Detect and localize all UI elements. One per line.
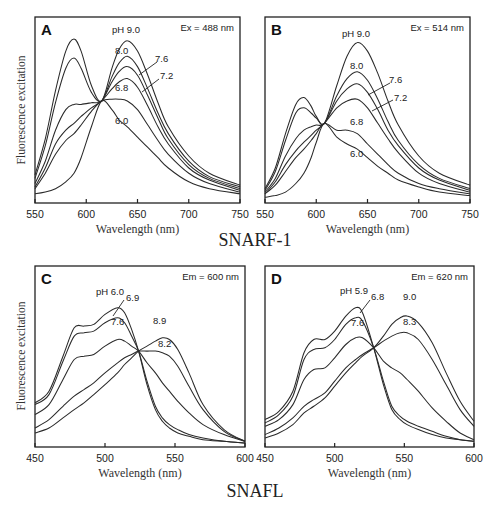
ph-label: 7.6	[155, 53, 168, 64]
ph-label: pH 9.0	[342, 28, 370, 39]
x-tick-label: 600	[77, 208, 95, 220]
ph-label: 6.9	[126, 292, 139, 303]
x-tick-label: 600	[307, 208, 325, 220]
panel-c-condition: Em = 600 nm	[182, 271, 239, 282]
ph-label: 8.2	[158, 338, 171, 349]
panel-d-frame	[265, 266, 474, 447]
x-tick-label: 650	[359, 208, 377, 220]
x-tick-label: 550	[256, 208, 274, 220]
figure-canvas: Fluorescence excitation Fluorescence exc…	[0, 0, 498, 508]
panel-d: 450500550600 pH 5.96.89.07.68.3 D Em = 6…	[256, 266, 483, 480]
panel-d-leader-lines	[360, 300, 370, 313]
ph-label: pH 9.0	[112, 24, 140, 35]
y-axis-label-top: Fluorescence excitation	[15, 55, 27, 164]
ph-label: 7.6	[389, 74, 402, 85]
curve-7.6	[265, 84, 470, 192]
x-tick-label: 600	[465, 452, 483, 464]
panel-b-frame	[265, 17, 470, 203]
panel-a-ph-labels: pH 9.08.07.67.26.86.0	[112, 24, 173, 126]
panel-c: 450500550600 pH 6.06.97.68.98.2 C Em = 6…	[26, 266, 254, 480]
ph-label: 7.6	[351, 317, 364, 328]
panel-a-x-axis-label: Wavelength (nm)	[96, 222, 179, 236]
ph-label: 8.9	[153, 315, 166, 326]
curve-ph-9.0	[265, 42, 470, 188]
x-tick-label: 750	[461, 208, 479, 220]
panel-c-x-ticks: 450500550600	[26, 443, 254, 464]
panel-a: 550600650700750 pH 9.08.07.67.26.86.0 A …	[26, 17, 249, 236]
x-tick-label: 450	[26, 452, 44, 464]
leader-line	[113, 300, 124, 316]
x-tick-label: 700	[410, 208, 428, 220]
ph-label: 7.6	[111, 316, 124, 327]
panel-a-curves	[35, 39, 240, 194]
curve-6.0	[265, 123, 470, 197]
panel-d-curves	[265, 307, 474, 441]
panel-b-curves	[265, 42, 470, 197]
panel-d-ph-labels: pH 5.96.89.07.68.3	[340, 285, 416, 328]
curve-6.9	[35, 318, 245, 443]
x-tick-label: 550	[26, 208, 44, 220]
ph-label: 6.8	[350, 116, 363, 127]
ph-label: 7.2	[160, 70, 173, 81]
x-tick-label: 550	[166, 452, 184, 464]
x-tick-label: 500	[96, 452, 114, 464]
panel-b-letter: B	[271, 21, 282, 38]
x-tick-label: 450	[256, 452, 274, 464]
panel-a-letter: A	[41, 21, 52, 38]
group-title-snarf: SNARF-1	[218, 230, 291, 250]
ph-label: pH 6.0	[96, 286, 124, 297]
ph-label: 6.0	[115, 115, 128, 126]
curve-ph-6.0	[35, 308, 245, 443]
panel-b-x-ticks: 550600650700750	[256, 199, 479, 220]
x-tick-label: 500	[326, 452, 344, 464]
panel-c-letter: C	[41, 270, 52, 287]
ph-label: 7.2	[394, 92, 407, 103]
panel-b-x-axis-label: Wavelength (nm)	[326, 222, 409, 236]
x-tick-label: 700	[180, 208, 198, 220]
panel-a-condition: Ex = 488 nm	[180, 22, 234, 33]
panel-d-letter: D	[271, 270, 282, 287]
curve-8.3	[265, 332, 474, 434]
ph-label: 8.0	[115, 45, 128, 56]
x-tick-label: 550	[396, 452, 414, 464]
curve-7.6	[265, 337, 474, 440]
panel-c-leader-lines	[113, 300, 124, 316]
ph-label: 8.0	[350, 60, 363, 71]
panel-d-condition: Em = 620 nm	[411, 271, 468, 282]
ph-label: 6.8	[115, 82, 128, 93]
ph-label: 6.8	[371, 291, 384, 302]
panel-b: 550600650700750 pH 9.08.07.67.26.86.0 B …	[256, 17, 479, 236]
ph-label: pH 5.9	[340, 285, 368, 296]
panel-d-x-ticks: 450500550600	[256, 443, 483, 464]
x-tick-label: 750	[231, 208, 249, 220]
panel-c-curves	[35, 308, 245, 443]
y-axis-label-bottom: Fluorescence excitation	[15, 301, 27, 410]
curve-7.6	[35, 67, 240, 189]
leader-line	[360, 300, 370, 313]
x-tick-label: 650	[129, 208, 147, 220]
panel-d-x-axis-label: Wavelength (nm)	[328, 466, 411, 480]
panel-a-x-ticks: 550600650700750	[26, 199, 249, 220]
ph-label: 9.0	[403, 291, 416, 302]
group-title-snafl: SNAFL	[226, 481, 283, 501]
ph-label: 8.3	[403, 316, 416, 327]
x-tick-label: 600	[236, 452, 254, 464]
panel-c-x-axis-label: Wavelength (nm)	[98, 466, 181, 480]
panel-b-condition: Ex = 514 nm	[410, 22, 464, 33]
ph-label: 6.0	[350, 148, 363, 159]
leader-line	[368, 83, 390, 95]
curve-8.2	[35, 351, 245, 441]
curve-ph-9.0	[35, 39, 240, 185]
